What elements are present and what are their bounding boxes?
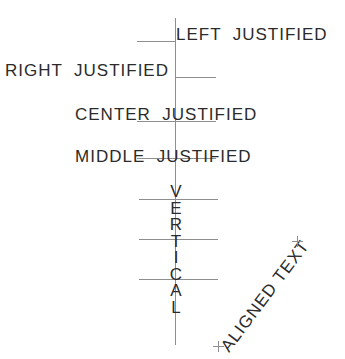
- aligned-start-marker-icon: [213, 341, 224, 352]
- right-justified-baseline: [175, 77, 216, 78]
- vertical-justified-text: V E R T I C A L: [168, 184, 184, 316]
- aligned-end-marker-icon: [292, 236, 303, 247]
- right-justified-text: RIGHT JUSTIFIED: [5, 62, 169, 79]
- middle-justified-text: MIDDLE JUSTIFIED: [75, 148, 252, 165]
- center-justified-text: CENTER JUSTIFIED: [75, 106, 257, 123]
- left-justified-text: LEFT JUSTIFIED: [176, 26, 328, 43]
- left-justified-baseline: [137, 41, 176, 42]
- cad-drawing-canvas: LEFT JUSTIFIED RIGHT JUSTIFIED CENTER JU…: [0, 0, 345, 359]
- aligned-text: ALIGNED TEXT: [217, 237, 314, 356]
- vertical-letter: L: [171, 300, 180, 317]
